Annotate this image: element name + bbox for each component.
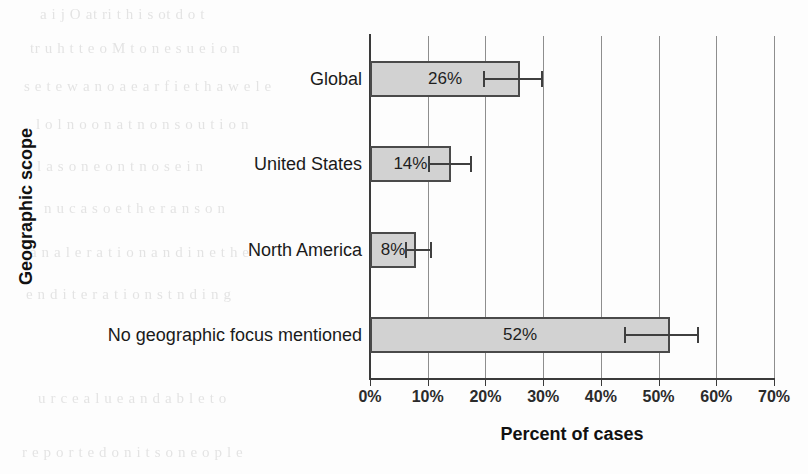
error-bar-cap-high-4 <box>697 327 699 343</box>
error-bar-cap-high-3 <box>430 242 432 258</box>
error-bar-cap-low-4 <box>624 327 626 343</box>
ghost-text-line: tr u h t t e o M t o n e s u e i o n <box>30 40 240 57</box>
bar-value-label-3: 8% <box>381 240 406 260</box>
x-gridline <box>716 36 717 378</box>
x-tick-label: 60% <box>700 388 732 406</box>
category-label-1: Global <box>40 68 362 89</box>
category-label-3: North America <box>40 239 362 260</box>
bar-value-label-2: 14% <box>393 154 427 174</box>
chart-figure: a i j O at ri t h i s ot d o t tr u h t … <box>0 0 808 474</box>
error-bar-cap-high-1 <box>541 71 543 87</box>
ghost-text-line: a i j O at ri t h i s ot d o t <box>40 6 205 23</box>
x-tick-label: 20% <box>469 388 501 406</box>
bar-value-label-4: 52% <box>503 325 537 345</box>
error-bar-cap-low-3 <box>405 242 407 258</box>
error-bar-cap-low-1 <box>483 71 485 87</box>
ghost-text-line: u r c e a l u e a n d a b l e t o <box>38 390 227 407</box>
x-gridline <box>774 36 775 378</box>
error-bar-cap-high-2 <box>470 156 472 172</box>
x-axis-title: Percent of cases <box>370 424 774 445</box>
error-bar-cap-low-2 <box>428 156 430 172</box>
ghost-text-line: n u c a s o e t h e r a n s o n <box>44 200 225 217</box>
bar-value-label-1: 26% <box>428 69 462 89</box>
x-tick-label: 50% <box>643 388 675 406</box>
x-tick-label: 30% <box>527 388 559 406</box>
ghost-text-line: l o l n o o n a t n o n s o u t i o n <box>36 116 249 133</box>
x-tick-label: 70% <box>758 388 790 406</box>
ghost-text-line: e n d i t e r a t i o n s t n d i n g <box>26 286 232 303</box>
x-tick-label: 40% <box>585 388 617 406</box>
error-bar-line-3 <box>405 249 432 251</box>
x-tick-label: 0% <box>358 388 381 406</box>
error-bar-line-1 <box>483 78 544 80</box>
ghost-text-line: r e p o r t e d o n i t s o n e o p l e <box>22 444 243 461</box>
error-bar-line-2 <box>428 163 472 165</box>
category-label-4: No geographic focus mentioned <box>40 325 362 346</box>
category-label-2: United States <box>40 154 362 175</box>
x-axis-line <box>369 378 775 380</box>
error-bar-line-4 <box>624 334 699 336</box>
x-tick-label: 10% <box>412 388 444 406</box>
y-axis-title: Geographic scope <box>16 117 37 297</box>
